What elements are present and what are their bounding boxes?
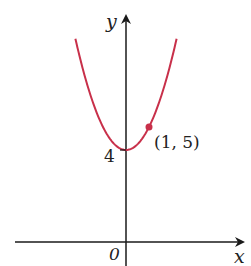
point-label: (1, 5) <box>154 132 200 152</box>
origin-label: 0 <box>109 244 120 264</box>
parabola-graph: y x 0 4 (1, 5) <box>0 0 251 266</box>
x-axis-label: x <box>234 245 245 266</box>
point-marker <box>146 124 153 131</box>
y-axis-label: y <box>105 10 117 32</box>
y-intercept-label: 4 <box>104 146 115 166</box>
